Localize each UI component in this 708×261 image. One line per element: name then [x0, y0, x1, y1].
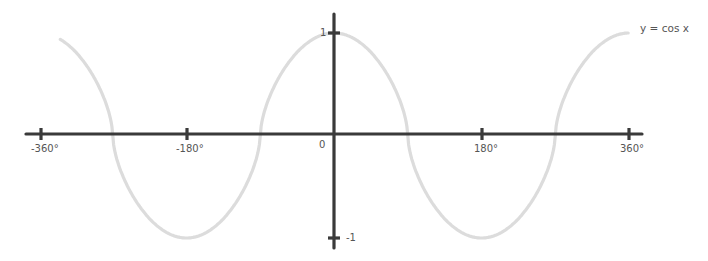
x-tick-label-neg360: -360°: [31, 144, 59, 154]
y-tick-label-1: 1: [320, 28, 326, 38]
legend-label: y = cos x: [640, 23, 689, 34]
x-tick-label-180: 180°: [474, 144, 498, 154]
origin-label: 0: [319, 140, 325, 150]
cosine-chart: [0, 0, 708, 261]
x-tick-label-360: 360°: [620, 144, 644, 154]
y-tick-label-neg1: -1: [346, 233, 356, 243]
x-tick-label-neg180: -180°: [176, 144, 204, 154]
